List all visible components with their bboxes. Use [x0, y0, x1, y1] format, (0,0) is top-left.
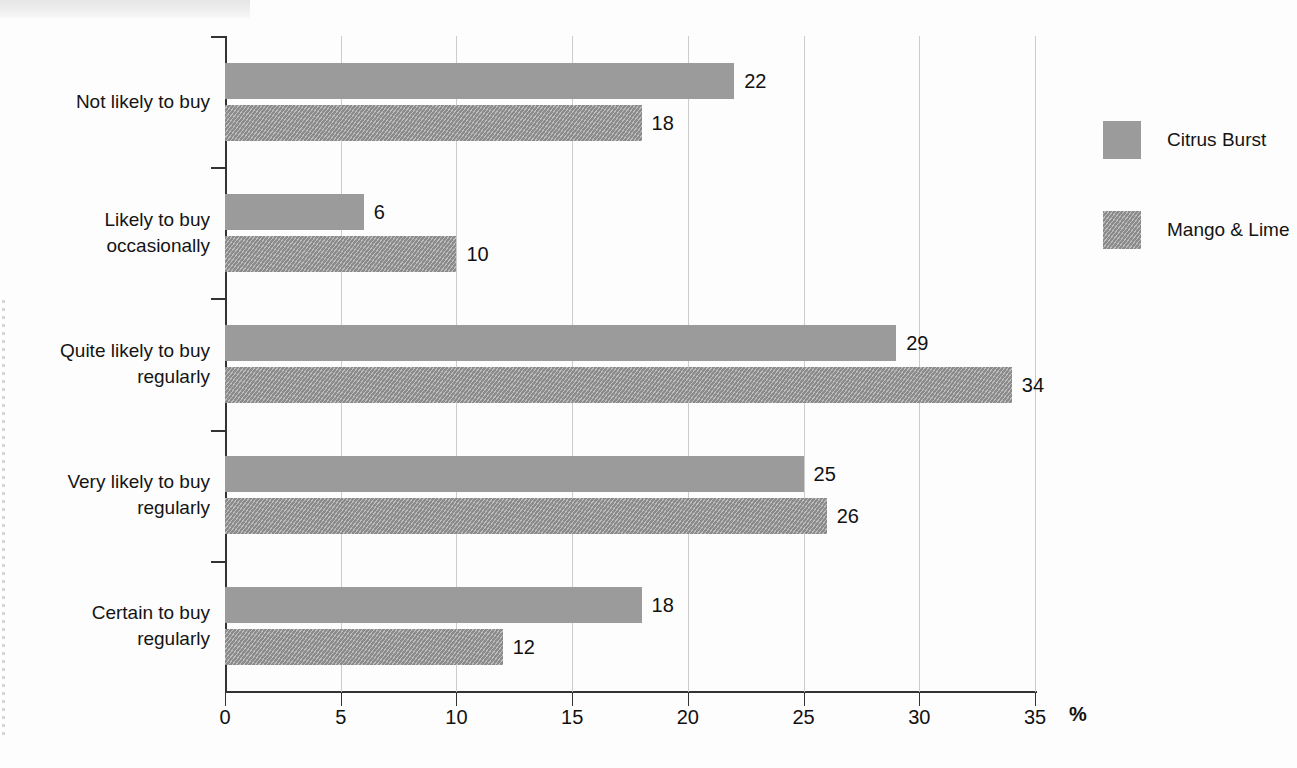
category-label-line: Not likely to buy	[0, 89, 210, 115]
x-axis-tick	[341, 692, 342, 706]
legend-item-1[interactable]: Mango & Lime	[1103, 210, 1293, 250]
plot-area: 2218610293425261812	[225, 36, 1035, 692]
x-axis-tick	[572, 692, 573, 706]
bar-value-label: 12	[513, 629, 535, 665]
chart-page: Not likely to buyLikely to buyoccasional…	[0, 0, 1297, 768]
category-label: Not likely to buy	[0, 89, 210, 115]
bar-1[interactable]	[225, 236, 456, 272]
chart-legend: Citrus BurstMango & Lime	[1103, 120, 1293, 300]
x-axis-tick-label: 15	[561, 706, 583, 729]
x-axis-tick-label: 30	[908, 706, 930, 729]
category-label-line: Certain to buy	[0, 600, 210, 626]
category-label-group: Not likely to buyLikely to buyoccasional…	[0, 36, 210, 692]
y-axis-tick	[211, 167, 226, 169]
bar-value-label: 18	[652, 105, 674, 141]
bar-value-label: 29	[906, 325, 928, 361]
bar-value-label: 18	[652, 587, 674, 623]
bar-1[interactable]	[225, 367, 1012, 403]
bar-value-label: 6	[374, 194, 385, 230]
x-axis-tick-label: 0	[219, 706, 230, 729]
x-axis-tick	[804, 692, 805, 706]
gridline	[804, 36, 805, 692]
gridline	[919, 36, 920, 692]
legend-item-0[interactable]: Citrus Burst	[1103, 120, 1293, 160]
category-label: Likely to buyoccasionally	[0, 207, 210, 259]
x-axis-tick-label: 20	[677, 706, 699, 729]
bar-value-label: 25	[814, 456, 836, 492]
x-axis-tick	[688, 692, 689, 706]
x-axis-tick	[456, 692, 457, 706]
bar-1[interactable]	[225, 629, 503, 665]
x-axis-tick	[225, 692, 226, 706]
x-axis-tick	[919, 692, 920, 706]
legend-label: Mango & Lime	[1167, 219, 1290, 241]
category-label-line: regularly	[0, 495, 210, 521]
category-label-line: Very likely to buy	[0, 469, 210, 495]
bar-1[interactable]	[225, 105, 642, 141]
category-label: Very likely to buyregularly	[0, 469, 210, 521]
x-axis-tick-label: 25	[792, 706, 814, 729]
legend-swatch-icon	[1103, 211, 1141, 249]
category-label-line: occasionally	[0, 233, 210, 259]
legend-label: Citrus Burst	[1167, 129, 1266, 151]
bar-value-label: 10	[466, 236, 488, 272]
bar-0[interactable]	[225, 587, 642, 623]
x-axis-tick-label: 5	[335, 706, 346, 729]
y-axis-tick	[211, 430, 226, 432]
category-label: Certain to buyregularly	[0, 600, 210, 652]
bar-0[interactable]	[225, 194, 364, 230]
bar-0[interactable]	[225, 63, 734, 99]
x-axis-tick-label: 35	[1024, 706, 1046, 729]
category-label-line: regularly	[0, 364, 210, 390]
scan-artifact-band	[0, 0, 250, 18]
bar-value-label: 26	[837, 498, 859, 534]
y-axis-tick	[211, 561, 226, 563]
legend-swatch-icon	[1103, 121, 1141, 159]
bar-value-label: 22	[744, 63, 766, 99]
gridline	[1035, 36, 1036, 692]
x-axis-tick-label: 10	[445, 706, 467, 729]
category-label-line: regularly	[0, 626, 210, 652]
bar-value-label: 34	[1022, 367, 1044, 403]
category-label-line: Likely to buy	[0, 207, 210, 233]
bar-0[interactable]	[225, 456, 804, 492]
bar-0[interactable]	[225, 325, 896, 361]
x-axis-tick	[1035, 692, 1036, 706]
bar-1[interactable]	[225, 498, 827, 534]
category-label: Quite likely to buyregularly	[0, 338, 210, 390]
y-axis-tick	[211, 298, 226, 300]
x-axis-unit-label: %	[1069, 703, 1087, 726]
gridline	[688, 36, 689, 692]
category-label-line: Quite likely to buy	[0, 338, 210, 364]
